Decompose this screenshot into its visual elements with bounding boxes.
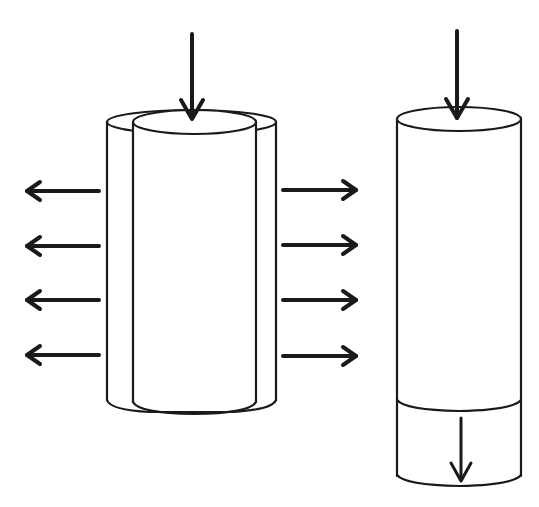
arrow-left-icon bbox=[27, 291, 99, 309]
left-top-arrow-icon bbox=[181, 34, 203, 119]
arrow-right-icon bbox=[283, 291, 356, 309]
diagram-canvas bbox=[0, 0, 539, 507]
right-figure bbox=[397, 31, 521, 486]
inner-cylinder bbox=[133, 110, 256, 414]
arrow-left-icon bbox=[27, 237, 99, 255]
cylinder-compression-diagram bbox=[0, 0, 539, 507]
arrow-left-icon bbox=[27, 182, 99, 200]
right-top-arrow-icon bbox=[446, 31, 468, 118]
bottom-down-arrow-icon bbox=[451, 418, 471, 481]
left-figure bbox=[27, 34, 356, 414]
left-outward-arrows bbox=[27, 182, 99, 364]
arrow-right-icon bbox=[283, 236, 356, 254]
inner-cylinder-body bbox=[133, 122, 256, 405]
arrow-right-icon bbox=[283, 181, 356, 199]
right-outward-arrows bbox=[283, 181, 356, 365]
arrow-right-icon bbox=[283, 347, 356, 365]
cylinder-section-divider bbox=[397, 400, 521, 411]
single-cylinder bbox=[397, 107, 521, 486]
arrow-left-icon bbox=[27, 346, 99, 364]
